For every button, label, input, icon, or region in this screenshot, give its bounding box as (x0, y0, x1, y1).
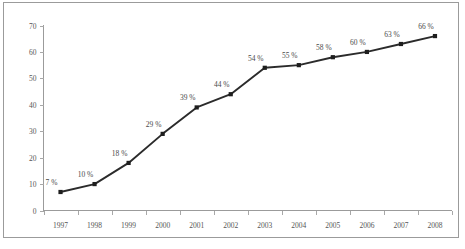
y-axis-tick-label: 50 (29, 74, 37, 83)
data-point-label: 7 % (46, 178, 58, 187)
y-axis: 010203040506070 (29, 22, 44, 216)
x-axis-tick-label: 1997 (53, 221, 68, 230)
y-axis-tick-label: 40 (29, 101, 37, 110)
data-point-marker (263, 66, 267, 70)
data-point-marker (127, 161, 131, 165)
data-point-marker (229, 92, 233, 96)
data-point-label: 10 % (78, 170, 94, 179)
x-axis-tick-label: 2006 (359, 221, 374, 230)
data-point-label: 44 % (214, 80, 230, 89)
data-point-marker (58, 190, 62, 194)
y-axis-tick-label: 0 (33, 207, 37, 216)
x-axis-tick-label: 2001 (189, 221, 204, 230)
y-axis-tick-label: 30 (29, 127, 37, 136)
x-axis-tick-label: 2004 (291, 221, 306, 230)
data-point-marker (331, 55, 335, 59)
data-point-marker (433, 34, 437, 38)
x-axis-tick-label: 1999 (121, 221, 136, 230)
data-point-label: 66 % (418, 22, 434, 31)
x-axis-tick-label: 2007 (393, 221, 408, 230)
y-axis-tick-label: 10 (29, 180, 37, 189)
data-point-label: 55 % (282, 51, 298, 60)
data-point-marker (161, 132, 165, 136)
data-point-marker (297, 63, 301, 67)
x-axis-tick-label: 2003 (257, 221, 272, 230)
chart-svg: 010203040506070 199719981999200020012002… (0, 0, 465, 249)
data-point-marker (92, 182, 96, 186)
data-point-marker (195, 105, 199, 109)
data-point-label: 58 % (316, 43, 332, 52)
data-point-label: 63 % (384, 30, 400, 39)
data-labels: 7 %10 %18 %29 %39 %44 %54 %55 %58 %60 %6… (46, 22, 434, 187)
y-axis-tick-label: 70 (29, 22, 37, 31)
data-point-label: 60 % (350, 38, 366, 47)
x-axis: 1997199819992000200120022003200420052006… (44, 211, 453, 230)
data-point-label: 54 % (248, 54, 264, 63)
y-axis-tick-label: 60 (29, 48, 37, 57)
x-axis-tick-label: 2005 (325, 221, 340, 230)
y-axis-tick-label: 20 (29, 154, 37, 163)
x-axis-tick-label: 2000 (155, 221, 170, 230)
x-axis-tick-label: 1998 (87, 221, 102, 230)
data-point-label: 39 % (180, 93, 196, 102)
line-chart: 010203040506070 199719981999200020012002… (0, 0, 465, 249)
data-point-marker (365, 50, 369, 54)
data-point-label: 29 % (146, 120, 162, 129)
x-axis-tick-label: 2002 (223, 221, 238, 230)
x-axis-tick-label: 2008 (427, 221, 442, 230)
data-point-label: 18 % (112, 149, 128, 158)
data-point-marker (399, 42, 403, 46)
